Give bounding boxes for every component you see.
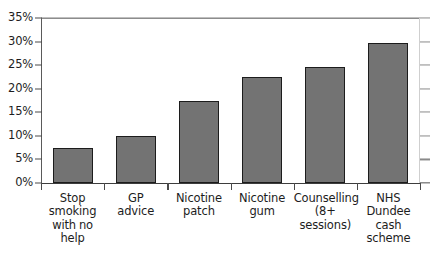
x-axis-category-label-line: NHS [357,192,420,205]
bar [116,136,156,183]
x-axis-category-label-line: Dundee [357,205,420,218]
x-axis-category-label-line: help [41,232,104,245]
y-axis-tick-label: 10% [0,130,33,142]
y-axis-tick-label: 30% [0,36,33,48]
x-axis-labels: Stopsmokingwith nohelpGPadviceNicotinepa… [41,192,420,258]
y-axis-tick-mark [35,159,42,160]
x-axis-category-label: Nicotinegum [231,192,294,219]
x-axis-category-label-line: (8+ [294,205,357,218]
y-axis-tick-label: 15% [0,107,33,119]
x-axis-category-label: Stopsmokingwith nohelp [41,192,104,246]
y-axis-tick-label: 0% [0,177,33,189]
x-axis-category-label-line: smoking [41,205,104,218]
y-axis: 0%5%10%15%20%25%30%35% [0,0,33,258]
x-axis-category-label-line: cash [357,219,420,232]
x-axis-category-label: NHSDundeecashscheme [357,192,420,246]
x-axis-tick-mark [420,183,421,190]
x-axis-category-label-line: Nicotine [231,192,294,205]
bar [53,148,93,183]
y-axis-tick-label: 35% [0,12,33,24]
y-axis-tick-mark [35,18,42,19]
bar-series [41,18,420,183]
y-axis-tick-mark [35,183,42,184]
y-axis-tick-mark [35,65,42,66]
x-axis-category-label-line: with no [41,219,104,232]
y-axis-tick-label: 5% [0,154,33,166]
x-axis-tick-mark [294,183,295,190]
x-axis-category-label-line: Counselling [294,192,357,205]
x-axis-category-label-line: Stop [41,192,104,205]
x-axis-category-label-line: patch [167,205,230,218]
x-axis-tick-mark [41,183,42,190]
x-axis-category-label-line: sessions) [294,219,357,232]
bar [305,67,345,183]
y-axis-tick-mark [35,41,42,42]
x-axis-category-label-line: gum [231,205,294,218]
x-axis-tick-mark [104,183,105,190]
y-axis-tick-mark [35,112,42,113]
y-axis-tick-label: 20% [0,83,33,95]
x-axis-tick-mark [231,183,232,190]
y-axis-tick-mark [35,135,42,136]
x-axis-category-label-line: GP [104,192,167,205]
x-axis-category-label-line: Nicotine [167,192,230,205]
y-axis-tick-mark [35,88,42,89]
bar-chart: 0%5%10%15%20%25%30%35% Stopsmokingwith n… [0,0,442,258]
x-axis-category-label: GPadvice [104,192,167,219]
y-axis-tick-label: 25% [0,59,33,71]
bar [368,43,408,183]
x-axis-category-label: Counselling(8+sessions) [294,192,357,232]
x-axis-tick-mark [167,183,168,190]
x-axis-category-label-line: advice [104,205,167,218]
bar [179,101,219,184]
x-axis-category-label-line: scheme [357,232,420,245]
bar [242,77,282,183]
x-axis-category-label: Nicotinepatch [167,192,230,219]
x-axis-tick-mark [357,183,358,190]
